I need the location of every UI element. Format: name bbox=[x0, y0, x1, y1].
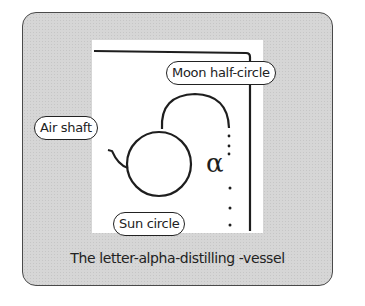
moon-half-circle-shape bbox=[162, 94, 229, 129]
air-shaft-shape bbox=[108, 150, 128, 168]
figure-caption: The letter-alpha-distilling -vessel bbox=[22, 250, 333, 266]
dotted-line bbox=[228, 135, 232, 227]
label-moon-half-circle: Moon half-circle bbox=[166, 61, 276, 85]
label-sun-circle: Sun circle bbox=[113, 212, 185, 236]
sun-circle-shape bbox=[127, 132, 191, 196]
alpha-glyph: α bbox=[206, 148, 224, 178]
label-air-shaft: Air shaft bbox=[34, 116, 98, 140]
